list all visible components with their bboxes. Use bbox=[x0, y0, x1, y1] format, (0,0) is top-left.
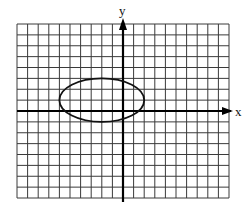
coordinate-plane: x y bbox=[0, 0, 247, 208]
y-axis-label: y bbox=[119, 3, 126, 18]
x-axis-label: x bbox=[235, 104, 242, 119]
x-axis-arrow-icon bbox=[222, 107, 233, 115]
